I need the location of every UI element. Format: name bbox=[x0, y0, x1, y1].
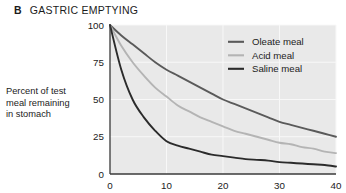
legend-label: Oleate meal bbox=[252, 36, 304, 47]
y-tick-label: 0 bbox=[99, 169, 105, 180]
chart-svg: 1007550250 010203040 Oleate mealAcid mea… bbox=[0, 0, 346, 193]
x-tick-label: 20 bbox=[218, 180, 229, 191]
y-tick-label: 100 bbox=[88, 20, 105, 31]
x-tick-label: 40 bbox=[331, 180, 342, 191]
plot-area-wrapper: 1007550250 010203040 Oleate mealAcid mea… bbox=[0, 0, 346, 193]
y-tick-label: 75 bbox=[93, 57, 104, 68]
x-tick-label: 10 bbox=[161, 180, 172, 191]
y-tick-labels: 1007550250 bbox=[88, 20, 105, 180]
gastric-emptying-figure: B GASTRIC EMPTYING Percent of test meal … bbox=[0, 0, 346, 193]
y-tick-label: 25 bbox=[93, 131, 104, 142]
x-tick-label: 0 bbox=[107, 180, 113, 191]
legend-label: Acid meal bbox=[252, 50, 294, 61]
x-tick-labels: 010203040 bbox=[107, 180, 342, 191]
x-tick-label: 30 bbox=[274, 180, 285, 191]
legend-label: Saline meal bbox=[252, 63, 302, 74]
chart-legend: Oleate mealAcid mealSaline meal bbox=[228, 36, 304, 74]
y-tick-label: 50 bbox=[93, 94, 104, 105]
